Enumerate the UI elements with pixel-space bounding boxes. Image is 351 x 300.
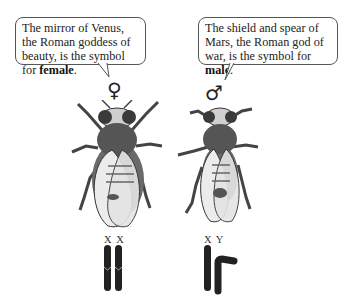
- female-fly-illustration: [50, 100, 190, 230]
- female-callout: The mirror of Venus, the Roman goddess o…: [15, 17, 146, 65]
- male-xy-chromosomes: [202, 245, 252, 295]
- venus-symbol-icon: ♀: [107, 80, 122, 100]
- male-fly-illustration: [170, 105, 310, 235]
- male-callout-pointer: [222, 63, 262, 87]
- male-callout-text: The shield and spear of Mars, the Roman …: [205, 21, 324, 63]
- male-callout: The shield and spear of Mars, the Roman …: [198, 17, 338, 65]
- male-chromosome-label: X Y: [204, 234, 224, 245]
- mars-symbol-icon: ♂: [205, 83, 223, 103]
- female-xx-chromosomes: [102, 245, 132, 295]
- female-chromosome-label: X X: [104, 234, 125, 245]
- female-callout-bold: female: [39, 63, 74, 77]
